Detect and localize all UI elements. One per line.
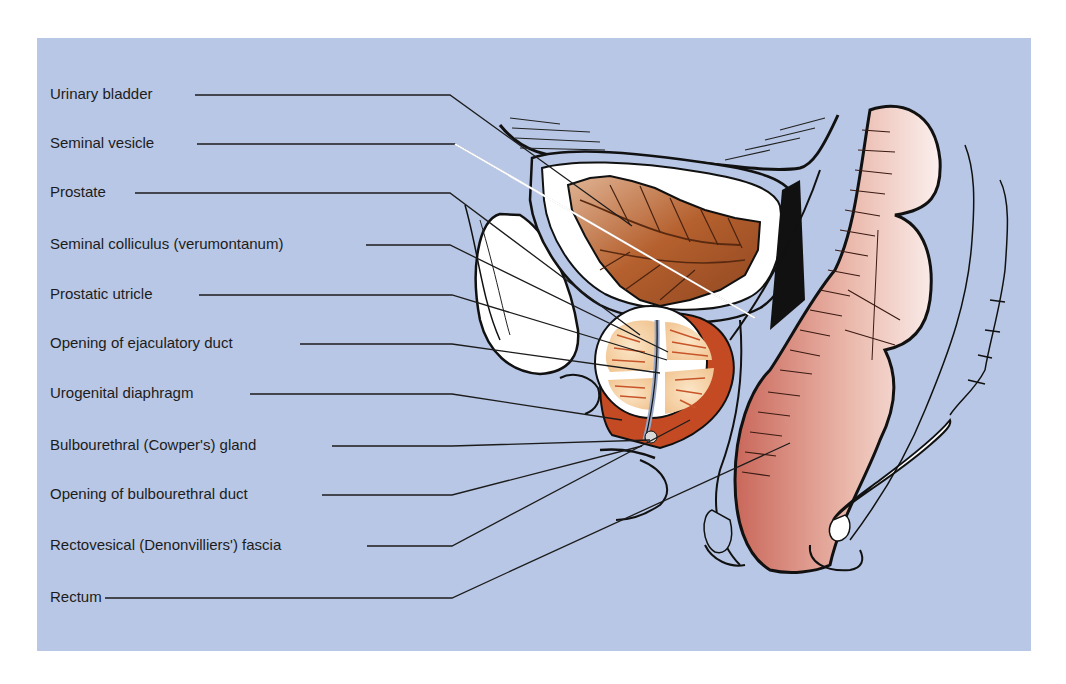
label-seminal-vesicle: Seminal vesicle — [50, 134, 154, 152]
leader-line — [250, 394, 622, 420]
leader-line — [332, 440, 650, 446]
prostate — [595, 306, 734, 448]
label-bulbourethral-gland: Bulbourethral (Cowper's) gland — [50, 436, 256, 454]
label-prostate: Prostate — [50, 183, 106, 201]
label-opening-bulbourethral-duct: Opening of bulbourethral duct — [50, 485, 248, 503]
label-rectovesical-fascia: Rectovesical (Denonvilliers') fascia — [50, 536, 281, 554]
label-prostatic-utricle: Prostatic utricle — [50, 285, 153, 303]
label-opening-ejaculatory-duct: Opening of ejaculatory duct — [50, 334, 233, 352]
label-urinary-bladder: Urinary bladder — [50, 85, 153, 103]
label-urogenital-diaphragm: Urogenital diaphragm — [50, 384, 193, 402]
label-rectum: Rectum — [50, 588, 102, 606]
leader-line — [105, 443, 790, 598]
label-seminal-colliculus: Seminal colliculus (verumontanum) — [50, 235, 283, 253]
